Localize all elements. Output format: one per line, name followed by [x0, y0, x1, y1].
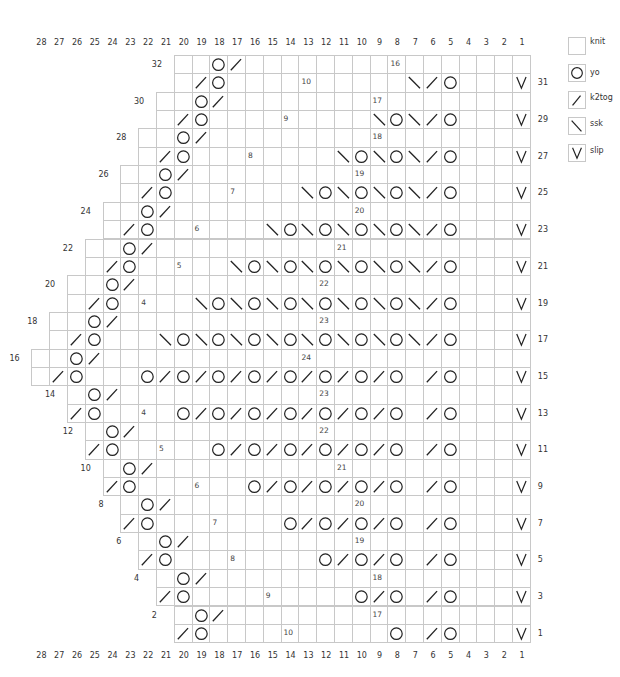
- circle-icon: [246, 368, 263, 385]
- stitch-cell: [156, 495, 175, 514]
- slash-icon: [104, 478, 121, 495]
- stitch-cell: [441, 165, 460, 184]
- circle-icon: [139, 203, 156, 220]
- backslash-icon: [299, 258, 316, 275]
- slash-icon: [335, 515, 352, 532]
- stitch-cell: [423, 385, 442, 404]
- stitch-cell: [334, 514, 353, 533]
- stitch-cell: [459, 257, 478, 276]
- stitch-cell: [245, 330, 264, 349]
- stitch-cell: [209, 294, 228, 313]
- stitch-cell: [263, 312, 282, 331]
- backslash-icon: [193, 331, 210, 348]
- stitch-cell: [263, 477, 282, 496]
- backslash-icon: [406, 221, 423, 238]
- circle-icon: [210, 56, 227, 73]
- circle-icon: [442, 441, 459, 458]
- circle-icon: [282, 405, 299, 422]
- stitch-cell: [512, 165, 531, 184]
- v-icon: [513, 148, 530, 165]
- stitch-cell: [316, 349, 335, 368]
- stitch-count-label: 8: [248, 151, 253, 160]
- stitch-cell: [174, 165, 193, 184]
- column-number: 17: [228, 38, 246, 47]
- circle-icon: [193, 93, 210, 110]
- stitch-cell: [316, 514, 335, 533]
- stitch-cell: [85, 312, 104, 331]
- v-icon: [513, 258, 530, 275]
- stitch-cell: [138, 367, 157, 386]
- circle-icon: [157, 166, 174, 183]
- stitch-cell: [156, 275, 175, 294]
- stitch-cell: [298, 257, 317, 276]
- slash-icon: [424, 405, 441, 422]
- circle-icon: [282, 258, 299, 275]
- slash-icon: [175, 625, 192, 642]
- stitch-cell: [387, 275, 406, 294]
- stitch-cell: [192, 275, 211, 294]
- stitch-cell: [512, 459, 531, 478]
- circle-icon: [104, 295, 121, 312]
- circle-icon: [282, 478, 299, 495]
- stitch-cell: [352, 624, 371, 643]
- stitch-cell: [174, 202, 193, 221]
- stitch-cell: [512, 73, 531, 92]
- stitch-cell: [459, 110, 478, 129]
- stitch-cell: [298, 55, 317, 74]
- stitch-cell: [281, 312, 300, 331]
- stitch-cell: [441, 459, 460, 478]
- stitch-cell: [174, 385, 193, 404]
- stitch-cell: [352, 440, 371, 459]
- stitch-count-label: 20: [355, 206, 365, 215]
- stitch-cell: [494, 459, 513, 478]
- stitch-cell: [209, 202, 228, 221]
- circle-icon: [246, 441, 263, 458]
- row-number: 8: [98, 500, 103, 509]
- stitch-cell: [405, 606, 424, 625]
- stitch-cell: [423, 587, 442, 606]
- stitch-cell: [281, 367, 300, 386]
- circle-icon: [442, 368, 459, 385]
- stitch-cell: [103, 385, 122, 404]
- stitch-cell: [334, 147, 353, 166]
- circle-icon: [442, 221, 459, 238]
- stitch-cell: [441, 110, 460, 129]
- stitch-cell: [245, 514, 264, 533]
- stitch-cell: [120, 202, 139, 221]
- circle-icon: [175, 148, 192, 165]
- column-number: 23: [121, 651, 139, 660]
- backslash-icon: [264, 295, 281, 312]
- stitch-cell: [227, 532, 246, 551]
- stitch-cell: [316, 220, 335, 239]
- slash-icon: [299, 515, 316, 532]
- stitch-cell: [103, 239, 122, 258]
- stitch-cell: [370, 55, 389, 74]
- stitch-cell: [370, 587, 389, 606]
- stitch-cell: [352, 367, 371, 386]
- stitch-cell: [370, 367, 389, 386]
- stitch-cell: [120, 404, 139, 423]
- stitch-cell: [476, 73, 495, 92]
- stitch-cell: [245, 550, 264, 569]
- slash-icon: [299, 441, 316, 458]
- stitch-cell: [227, 349, 246, 368]
- stitch-cell: [334, 569, 353, 588]
- stitch-cell: [405, 514, 424, 533]
- stitch-cell: [441, 128, 460, 147]
- row-number: 27: [538, 152, 548, 161]
- stitch-cell: [103, 422, 122, 441]
- backslash-icon: [335, 295, 352, 312]
- stitch-cell: [281, 92, 300, 111]
- stitch-cell: [370, 147, 389, 166]
- stitch-cell: [67, 404, 86, 423]
- circle-icon: [317, 551, 334, 568]
- slash-icon: [193, 570, 210, 587]
- stitch-cell: [156, 165, 175, 184]
- stitch-cell: [156, 257, 175, 276]
- stitch-cell: [370, 624, 389, 643]
- row-number: 21: [538, 262, 548, 271]
- stitch-cell: [405, 147, 424, 166]
- stitch-cell: [227, 202, 246, 221]
- stitch-cell: [387, 440, 406, 459]
- stitch-cell: [512, 330, 531, 349]
